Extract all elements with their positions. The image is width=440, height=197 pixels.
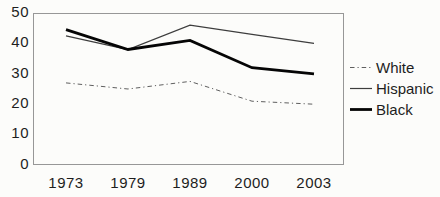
hispanic-series-line	[66, 25, 314, 49]
legend-item-black: Black	[350, 99, 434, 120]
y-axis-tick-label: 30	[0, 64, 29, 82]
black-series-line	[66, 30, 314, 74]
x-axis-tick-label: 1989	[160, 174, 220, 192]
series-lines	[33, 13, 344, 165]
plot-area	[33, 13, 344, 165]
white-series-line	[66, 81, 314, 104]
legend-label: Hispanic	[376, 80, 434, 98]
x-axis-tick-label: 1979	[98, 174, 158, 192]
plot-frame	[34, 14, 344, 165]
hispanic-line-sample	[350, 85, 372, 92]
legend-item-white: White	[350, 57, 434, 78]
black-line-sample	[350, 106, 372, 113]
legend-label: White	[376, 59, 414, 77]
legend-label: Black	[376, 101, 413, 119]
white-line-sample	[350, 64, 372, 71]
x-axis-tick-label: 2003	[284, 174, 344, 192]
legend-item-hispanic: Hispanic	[350, 78, 434, 99]
y-axis-tick-label: 20	[0, 94, 29, 112]
legend: White Hispanic Black	[350, 57, 434, 120]
x-axis-tick-label: 1973	[36, 174, 96, 192]
y-axis-tick-label: 40	[0, 33, 29, 51]
line-chart: 50 40 30 20 10 0 1973 1979 1989 2000 200…	[0, 0, 440, 197]
y-axis-tick-label: 0	[0, 155, 29, 173]
y-axis-tick-label: 50	[0, 3, 29, 21]
x-axis-tick-label: 2000	[222, 174, 282, 192]
y-axis-tick-label: 10	[0, 124, 29, 142]
